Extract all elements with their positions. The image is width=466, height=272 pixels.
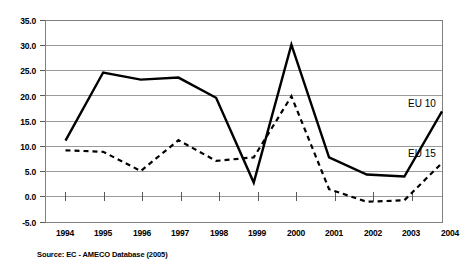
source-note: Source: EC - AMECO Database (2005) (37, 250, 168, 259)
y-axis-ticks (40, 21, 45, 223)
series-label-eu10: EU 10 (408, 98, 436, 109)
plot-area (0, 0, 466, 272)
series-label-eu15: EU 15 (408, 148, 436, 159)
chart-container: 35.0 30.0 25.0 20.0 15.0 10.0 5.0 0.0 -5… (0, 0, 466, 272)
